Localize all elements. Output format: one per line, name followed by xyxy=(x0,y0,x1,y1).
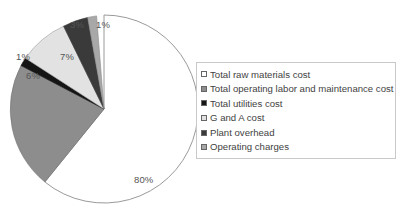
legend-item-total-raw-materials-cost[interactable]: Total raw materials cost xyxy=(201,67,392,82)
legend-swatch-icon xyxy=(201,144,207,150)
slice-label-g-and-a-cost: 7% xyxy=(60,51,74,62)
legend-swatch-icon xyxy=(201,100,207,106)
chart-legend: Total raw materials cost Total operating… xyxy=(196,62,396,159)
legend-label: Plant overhead xyxy=(210,128,275,138)
pie-svg xyxy=(8,13,200,205)
legend-label: Operating charges xyxy=(210,142,289,152)
legend-label: G and A cost xyxy=(210,113,264,123)
legend-label: Total raw materials cost xyxy=(210,70,310,80)
legend-item-plant-overhead[interactable]: Plant overhead xyxy=(201,125,392,140)
slice-label-operating-charges: 1% xyxy=(96,19,110,30)
legend-swatch-icon xyxy=(201,130,207,136)
legend-label: Total operating labor and maintenance co… xyxy=(210,84,393,94)
slice-label-total-operating-labor-and-maintenance-cost: 6% xyxy=(26,70,40,81)
legend-swatch-icon xyxy=(201,71,207,77)
legend-item-total-operating-labor-and-maintenance-cost[interactable]: Total operating labor and maintenance co… xyxy=(201,82,392,97)
slice-label-total-utilities-cost: 1% xyxy=(16,51,30,62)
legend-item-g-and-a-cost[interactable]: G and A cost xyxy=(201,111,392,126)
legend-label: Total utilities cost xyxy=(210,99,283,109)
slice-label-plant-overhead: 3% xyxy=(70,19,84,30)
legend-swatch-icon xyxy=(201,86,207,92)
legend-item-operating-charges[interactable]: Operating charges xyxy=(201,140,392,155)
pie-chart: 80% 6% 1% 7% 3% 1% Total raw materials c… xyxy=(0,0,412,218)
legend-swatch-icon xyxy=(201,115,207,121)
slice-label-total-raw-materials-cost: 80% xyxy=(134,174,153,185)
legend-item-total-utilities-cost[interactable]: Total utilities cost xyxy=(201,96,392,111)
pie-graphic: 80% 6% 1% 7% 3% 1% xyxy=(8,13,200,205)
